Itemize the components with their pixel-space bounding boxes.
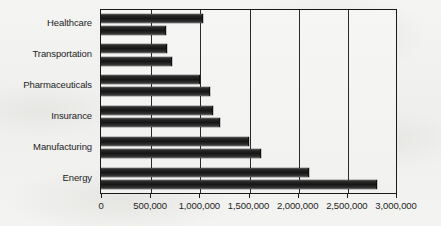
x-axis-label-3000000: 3,000,000	[375, 200, 416, 211]
x-axis-label-0: 0	[98, 200, 103, 211]
bar	[101, 75, 200, 84]
y-axis-label-insurance: Insurance	[0, 111, 92, 121]
bar	[101, 14, 203, 23]
bar	[101, 57, 172, 66]
bar	[101, 180, 377, 189]
y-axis-label-healthcare: Healthcare	[0, 18, 92, 28]
x-axis-label-1000000: 1,000,000	[179, 200, 220, 211]
x-axis-label-2500000: 2,500,000	[326, 200, 367, 211]
bar	[101, 118, 220, 127]
y-axis-label-transportation: Transportation	[0, 49, 92, 59]
x-axis-tick-2000000	[298, 194, 299, 198]
x-axis-tick-500000	[150, 194, 151, 198]
bar	[101, 137, 249, 146]
x-axis-tick-1500000	[249, 194, 250, 198]
x-axis: 0500,0001,000,0001,500,0002,000,0002,500…	[100, 194, 397, 226]
bar	[101, 106, 213, 115]
x-axis-tick-1000000	[199, 194, 200, 198]
y-axis-category-labels: HealthcareTransportationPharmaceuticalsI…	[0, 8, 97, 193]
x-axis-label-2000000: 2,000,000	[277, 200, 318, 211]
x-axis-label-500000: 500,000	[133, 200, 167, 211]
bars-layer	[101, 10, 396, 193]
y-axis-label-pharmaceuticals: Pharmaceuticals	[0, 80, 92, 90]
x-axis-tick-2500000	[347, 194, 348, 198]
bar	[101, 26, 166, 35]
bar	[101, 44, 167, 53]
bar	[101, 149, 261, 158]
y-axis-label-energy: Energy	[0, 173, 92, 183]
y-axis-label-manufacturing: Manufacturing	[0, 142, 92, 152]
bar	[101, 168, 309, 177]
bar	[101, 87, 210, 96]
x-axis-tick-0	[101, 194, 102, 198]
bar-chart: HealthcareTransportationPharmaceuticalsI…	[0, 0, 441, 226]
plot-area	[100, 9, 397, 194]
x-axis-label-1500000: 1,500,000	[228, 200, 269, 211]
x-axis-tick-3000000	[396, 194, 397, 198]
